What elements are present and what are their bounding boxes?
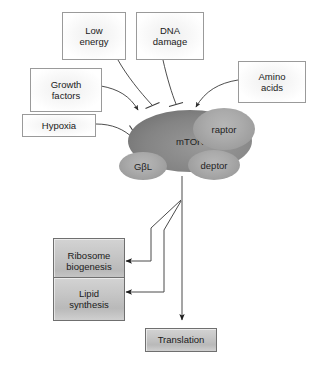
raptor-label: raptor [212, 124, 237, 135]
ribosome-biogenesis-label-line2: biogenesis [66, 261, 111, 272]
edge-amino-acids-to-mtor [196, 80, 238, 107]
mtor-pathway-diagram: Low energy DNA damage Growth factors Hyp… [0, 0, 319, 366]
growth-factors-label-line2: factors [51, 90, 82, 101]
gbl-label: GβL [134, 161, 152, 172]
input-box-amino-acids[interactable]: Amino acids [238, 61, 306, 103]
input-box-hypoxia[interactable]: Hypoxia [22, 114, 96, 137]
input-box-dna-damage[interactable]: DNA damage [136, 12, 204, 60]
output-box-lipid-synthesis[interactable]: Lipid synthesis [53, 277, 125, 321]
input-box-growth-factors[interactable]: Growth factors [30, 68, 102, 112]
input-box-low-energy[interactable]: Low energy [62, 12, 126, 60]
growth-factors-label-line1: Growth [51, 79, 82, 90]
translation-label: Translation [158, 334, 205, 345]
edge-dna-damage-to-mtor [163, 60, 183, 107]
lipid-synthesis-label-line2: synthesis [69, 299, 109, 310]
amino-acids-label-line2: acids [259, 82, 286, 93]
dna-damage-label-line2: damage [153, 36, 187, 47]
low-energy-label-line2: energy [79, 36, 108, 47]
edge-low-energy-to-mtor [118, 60, 160, 109]
hypoxia-label: Hypoxia [42, 120, 76, 131]
deptor-label: deptor [201, 160, 228, 171]
raptor-ellipse[interactable]: raptor [193, 108, 255, 150]
amino-acids-label-line1: Amino [259, 71, 286, 82]
deptor-ellipse[interactable]: deptor [188, 150, 240, 180]
edge-growth-factors-to-mtor [101, 86, 138, 110]
dna-damage-label-line1: DNA [153, 25, 187, 36]
gbl-ellipse[interactable]: GβL [119, 152, 167, 180]
ribosome-biogenesis-label-line1: Ribosome [66, 250, 111, 261]
edge-mtor-to-lipid-synthesis [126, 201, 181, 292]
lipid-synthesis-label-line1: Lipid [69, 288, 109, 299]
edge-mtor-to-ribosome-biogenesis [126, 200, 181, 261]
low-energy-label-line1: Low [79, 25, 108, 36]
output-box-translation[interactable]: Translation [145, 328, 217, 352]
